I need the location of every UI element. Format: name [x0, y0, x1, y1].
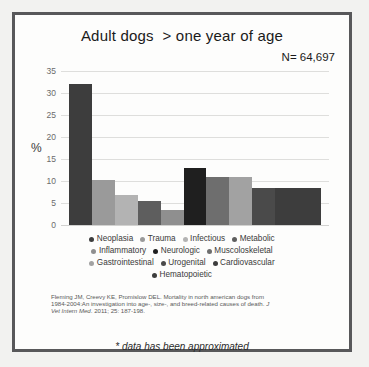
legend-item-label: Infectious	[190, 233, 225, 245]
legend-swatch-icon	[161, 261, 166, 266]
legend-swatch-icon	[207, 249, 212, 254]
y-axis-tick: 20	[47, 132, 56, 142]
legend-swatch-icon	[91, 249, 96, 254]
legend-item-urogenital: Urogenital	[161, 257, 206, 269]
citation-line-3-rest: . 2011; 25: 187-198.	[91, 307, 145, 314]
legend-item-label: Muscoloskeletal	[214, 245, 272, 257]
y-axis-tick: 35	[47, 66, 56, 76]
y-axis-tick: 15	[47, 154, 56, 164]
legend-row: InflammatoryNeurologicMuscoloskeletal	[15, 245, 349, 257]
legend-item-label: Hematopoietic	[160, 269, 212, 281]
legend-swatch-icon	[183, 237, 188, 242]
y-axis-label: %	[31, 141, 42, 155]
legend-item-neoplasia: Neoplasia	[89, 233, 133, 245]
y-axis-tick: 5	[51, 198, 56, 208]
bar-cardiovascular	[275, 188, 298, 225]
citation-journal-name: Vet Intern Med	[51, 307, 91, 314]
legend-item-label: Inflammatory	[99, 245, 146, 257]
bar-trauma	[92, 180, 115, 225]
legend-item-infectious: Infectious	[183, 233, 226, 245]
legend-item-metabolic: Metabolic	[232, 233, 275, 245]
legend-item-cardiovascular: Cardiovascular	[213, 257, 275, 269]
legend-item-trauma: Trauma	[140, 233, 175, 245]
legend-row: NeoplasiaTraumaInfectiousMetabolic	[15, 233, 349, 245]
bar-hematopoietic	[298, 188, 321, 225]
legend-row: GastrointestinalUrogenitalCardiovascular	[15, 257, 349, 269]
gridline: 0	[61, 225, 329, 226]
footnote-note: * data has been approximated	[15, 341, 349, 352]
legend-item-label: Gastrointestinal	[97, 257, 154, 269]
bar-inflammatory	[161, 210, 184, 225]
bar-gastrointestinal	[229, 177, 252, 225]
bar-muscoloskeletal	[206, 177, 229, 225]
legend-swatch-icon	[140, 237, 145, 242]
y-axis-tick: 30	[47, 88, 56, 98]
legend-row: Hematopoietic	[15, 269, 349, 281]
legend-swatch-icon	[213, 261, 218, 266]
legend-swatch-icon	[153, 249, 158, 254]
legend-item-inflammatory: Inflammatory	[91, 245, 146, 257]
page-title: Adult dogs > one year of age	[15, 27, 349, 44]
bar-infectious	[115, 195, 138, 225]
slide-canvas: Adult dogs > one year of age N= 64,697 %…	[15, 15, 349, 349]
legend-item-hematopoietic: Hematopoietic	[152, 269, 212, 281]
legend-item-muscoloskeletal: Muscoloskeletal	[207, 245, 273, 257]
citation-block: Fleming JM, Creevy KE, Promislow DEL. Mo…	[51, 293, 323, 315]
bar-urogenital	[252, 188, 275, 225]
legend-item-gastrointestinal: Gastrointestinal	[89, 257, 153, 269]
legend-item-neurologic: Neurologic	[153, 245, 200, 257]
y-axis-tick: 25	[47, 110, 56, 120]
bar-neurologic	[184, 168, 207, 225]
legend-swatch-icon	[152, 273, 157, 278]
bar-metabolic	[138, 201, 161, 225]
legend-item-label: Neurologic	[161, 245, 200, 257]
chart-legend: NeoplasiaTraumaInfectiousMetabolicInflam…	[15, 233, 349, 281]
legend-item-label: Cardiovascular	[220, 257, 275, 269]
bar-chart-plot: 35302520151050	[61, 71, 329, 225]
legend-swatch-icon	[89, 237, 94, 242]
sample-size-annotation: N= 64,697	[282, 51, 335, 63]
citation-line-1: Fleming JM, Creevy KE, Promislow DEL. Mo…	[51, 293, 264, 300]
slide-frame: Adult dogs > one year of age N= 64,697 %…	[12, 12, 352, 352]
legend-swatch-icon	[89, 261, 94, 266]
legend-item-label: Metabolic	[240, 233, 275, 245]
y-axis-tick: 0	[51, 220, 56, 230]
legend-swatch-icon	[232, 237, 237, 242]
legend-item-label: Trauma	[148, 233, 176, 245]
citation-line-2: 1984-2004:An investigation into age-, si…	[51, 300, 266, 307]
legend-item-label: Neoplasia	[97, 233, 133, 245]
y-axis-tick: 10	[47, 176, 56, 186]
citation-journal-initial: J	[266, 300, 269, 307]
bar-series	[69, 71, 321, 225]
bar-neoplasia	[69, 84, 92, 225]
legend-item-label: Urogenital	[168, 257, 205, 269]
